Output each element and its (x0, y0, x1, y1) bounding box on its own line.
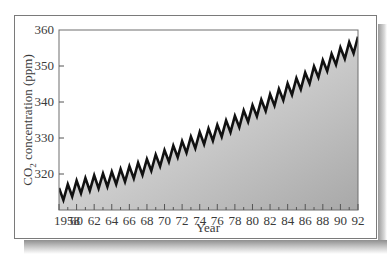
x-tick-label: 82 (264, 213, 277, 228)
x-tick-label: 80 (246, 213, 259, 228)
x-tick-label: 70 (158, 213, 171, 228)
y-tick-label: 330 (35, 130, 55, 145)
x-tick-label: 62 (88, 213, 101, 228)
x-tick-label: 92 (352, 213, 365, 228)
y-tick-label: 360 (35, 22, 55, 37)
x-tick-label: 68 (140, 213, 153, 228)
x-tick-label: 86 (299, 213, 313, 228)
x-tick-label: 72 (176, 213, 189, 228)
x-tick-label: 66 (123, 213, 137, 228)
x-tick-label: 64 (105, 213, 119, 228)
area-fill (59, 37, 358, 210)
x-tick-label: 84 (281, 213, 295, 228)
y-tick-label: 350 (35, 58, 55, 73)
y-axis-title: CO2 concentration (ppm) (20, 54, 38, 186)
x-tick-label: 78 (228, 213, 241, 228)
y-axis: 320330340350360 (35, 22, 65, 181)
x-tick-label: 60 (70, 213, 83, 228)
x-tick-label: 88 (316, 213, 329, 228)
x-tick-label: 90 (334, 213, 347, 228)
x-axis-title: Year (196, 220, 221, 235)
co2-chart: 320330340350360 195860626466687072747678… (0, 0, 387, 267)
y-tick-label: 340 (35, 94, 55, 109)
